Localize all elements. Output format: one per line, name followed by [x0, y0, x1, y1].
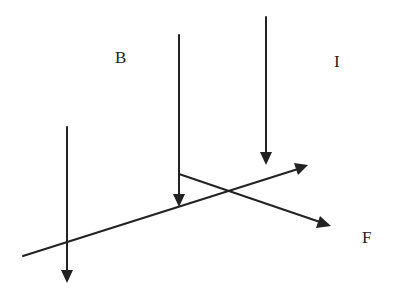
diagram-canvas: B I F — [0, 0, 395, 296]
arrowhead-down-icon — [61, 270, 73, 283]
current-wire — [23, 163, 308, 256]
field-line-right — [260, 17, 272, 165]
field-line-middle — [173, 35, 185, 207]
field-line-left — [61, 127, 73, 283]
arrowhead-down-icon — [260, 152, 272, 165]
arrowhead-current-icon — [294, 163, 308, 175]
label-field-b: B — [115, 48, 126, 67]
label-force-f: F — [362, 228, 371, 247]
arrowhead-force-icon — [316, 216, 331, 228]
label-current-i: I — [334, 52, 340, 71]
